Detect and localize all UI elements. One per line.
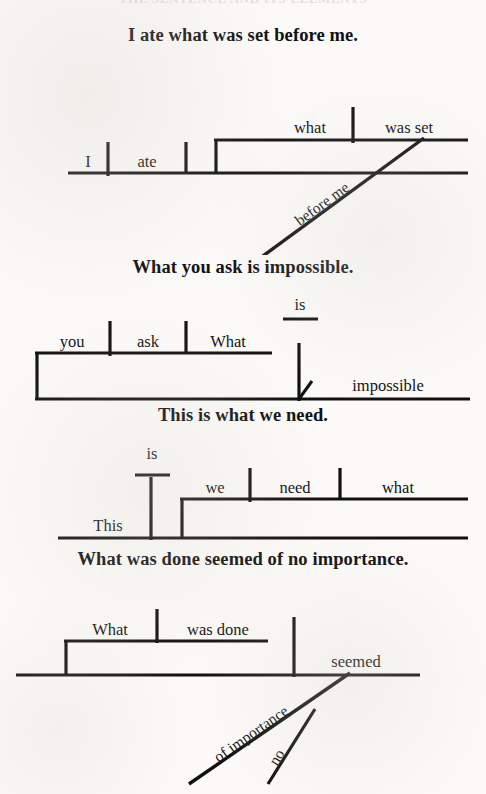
word-subject: I — [85, 152, 91, 171]
word-clause-subject: What — [92, 620, 128, 639]
word-modifier: before me — [292, 179, 353, 229]
diagram-1: I ate what was set before me — [0, 45, 486, 255]
diagram-2: you ask What is impossible — [0, 277, 486, 403]
word-clause-verb: ask — [137, 332, 160, 351]
word-clause-subject: you — [60, 332, 85, 351]
diagram-2-svg: you ask What is impossible — [0, 277, 486, 403]
sentence-caption-1: I ate what was set before me. — [0, 26, 486, 45]
word-complement: impossible — [352, 376, 424, 395]
word-verb: is — [294, 295, 305, 314]
sentence-caption-3: This is what we need. — [0, 406, 486, 425]
word-clause-verb: was set — [385, 118, 434, 137]
diagram-3: This is we need what — [0, 425, 486, 543]
diagram-4-svg: What was done seemed of importance no — [0, 569, 486, 789]
word-subject: This — [93, 516, 122, 535]
diagram-2-complement-slant — [299, 381, 312, 399]
diagram-block-2: What you ask is impossible. you — [0, 258, 486, 403]
word-clause-object: what — [382, 478, 414, 497]
word-clause-verb: was done — [187, 620, 249, 639]
running-head: THE SENTENCE AND ITS ELEMENTS — [0, 0, 486, 3]
sentence-caption-2: What you ask is impossible. — [0, 258, 486, 277]
word-verb: is — [146, 444, 157, 463]
word-clause-subject: we — [205, 478, 224, 497]
scanned-page: THE SENTENCE AND ITS ELEMENTS I ate what… — [0, 0, 486, 794]
diagram-block-1: I ate what was set before me. I ate — [0, 26, 486, 255]
diagram-block-3: This is what we need. This is we — [0, 406, 486, 543]
word-verb: seemed — [331, 652, 381, 671]
word-clause-subject: what — [294, 118, 326, 137]
sentence-caption-4: What was done seemed of no importance. — [0, 550, 486, 569]
diagram-block-4: What was done seemed of no importance. W… — [0, 550, 486, 789]
word-clause-object: What — [210, 332, 246, 351]
diagram-3-svg: This is we need what — [0, 425, 486, 543]
word-clause-verb: need — [279, 478, 311, 497]
diagram-1-svg: I ate what was set before me — [0, 45, 486, 255]
diagram-4: What was done seemed of importance no — [0, 569, 486, 789]
word-phrase-modifier: no — [265, 746, 288, 768]
word-verb: ate — [137, 152, 156, 171]
